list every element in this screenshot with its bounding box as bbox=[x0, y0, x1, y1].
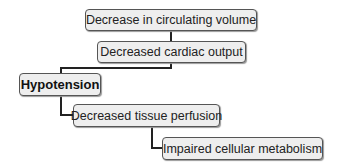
connector-n3-n4-vertical bbox=[60, 96, 62, 116]
node-decrease-in-circulating-volume: Decrease in circulating volume bbox=[85, 9, 257, 31]
node-decreased-tissue-perfusion: Decreased tissue perfusion bbox=[73, 104, 220, 127]
node-label: Decrease in circulating volume bbox=[86, 13, 256, 27]
node-impaired-cellular-metabolism: Impaired cellular metabolism bbox=[162, 137, 323, 160]
node-label: Decreased tissue perfusion bbox=[71, 109, 222, 123]
connector-n4-n5-vertical bbox=[151, 127, 153, 149]
node-label: Impaired cellular metabolism bbox=[163, 142, 322, 156]
node-decreased-cardiac-output: Decreased cardiac output bbox=[97, 41, 246, 63]
node-hypotension: Hypotension bbox=[19, 73, 101, 96]
connector-n2-n3-horizontal bbox=[60, 67, 172, 69]
node-label: Decreased cardiac output bbox=[100, 45, 242, 59]
connector-n1-n2 bbox=[170, 31, 172, 41]
node-label: Hypotension bbox=[21, 77, 100, 92]
